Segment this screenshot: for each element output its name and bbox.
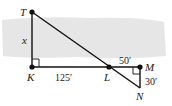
point-M — [137, 64, 142, 69]
measure-KL: 125′ — [55, 72, 72, 83]
measure-MN: 30′ — [145, 76, 157, 87]
label-N: N — [135, 90, 144, 102]
label-T: T — [20, 6, 27, 18]
similar-triangles-diagram: T K L M N x 125′ 50′ 30′ — [0, 0, 172, 106]
label-K: K — [26, 71, 35, 83]
measure-LM: 50′ — [119, 55, 131, 66]
point-T — [29, 9, 34, 14]
point-L — [106, 64, 111, 69]
label-L: L — [103, 71, 110, 83]
measure-TK: x — [21, 34, 27, 46]
label-M: M — [144, 61, 155, 73]
point-K — [29, 64, 34, 69]
